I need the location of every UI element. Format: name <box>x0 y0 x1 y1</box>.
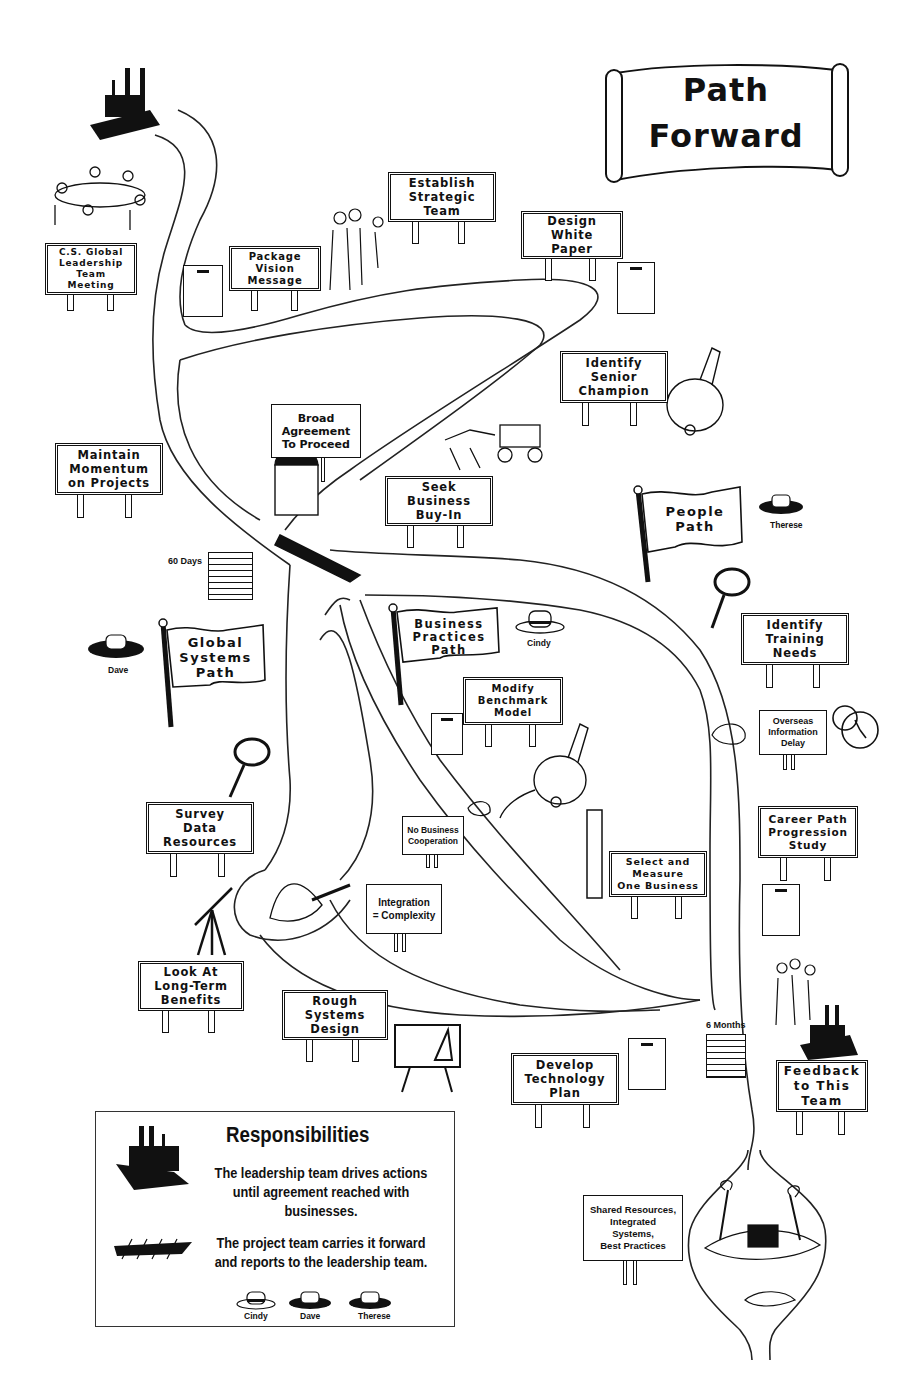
sign-no-business-cooperation: No Business Cooperation <box>402 816 464 868</box>
clipboard-icon <box>431 713 463 755</box>
sign-establish-strategic-team: Establish Strategic Team <box>388 172 496 244</box>
sign-look-long-term-benefits: Look At Long-Term Benefits <box>138 961 244 1033</box>
elephant-icon <box>667 348 723 435</box>
calendar-icon <box>706 1034 746 1078</box>
hat-icon <box>236 1288 276 1310</box>
legend-title: Responsibilities <box>226 1122 369 1148</box>
people-group-icon <box>776 959 815 1025</box>
stagecoach-icon <box>445 425 542 470</box>
hat-icon <box>515 605 565 635</box>
magnifier-icon <box>230 739 269 797</box>
drafting-table-icon <box>395 1025 460 1092</box>
legend-person-therese: Therese <box>358 1311 391 1321</box>
legend-project-text: The project team carries it forward and … <box>207 1234 436 1272</box>
clipboard-icon <box>762 884 800 936</box>
alarm-clock-icon <box>833 706 878 748</box>
hat-icon <box>86 627 146 659</box>
flag-people-path: People Path <box>630 482 750 587</box>
legend-person-dave: Dave <box>300 1311 320 1321</box>
flag-business-practices-path: Business Practices Path <box>385 600 505 710</box>
people-group-icon <box>330 209 383 290</box>
sign-design-white-paper: Design White Paper <box>521 211 623 281</box>
flag-global-systems-path: Global Systems Path <box>155 615 270 730</box>
sign-identify-training-needs: Identify Training Needs <box>741 613 849 688</box>
steamboat-icon <box>114 1124 194 1194</box>
responsibilities-legend: Responsibilities The leadership team dri… <box>95 1111 455 1327</box>
milestone-6-months: 6 Months <box>706 1020 746 1030</box>
title-line-1: Path <box>596 70 856 110</box>
sign-develop-technology-plan: Develop Technology Plan <box>511 1053 619 1128</box>
treasure-island-icon <box>705 1181 820 1306</box>
flag-icon <box>630 482 750 587</box>
ruler-icon <box>587 810 602 898</box>
clipboard-icon <box>628 1038 666 1090</box>
calendar-icon <box>208 552 253 600</box>
rowboat-icon <box>112 1234 197 1264</box>
hat-label-dave: Dave <box>108 665 128 675</box>
milestone-60-days: 60 Days <box>168 556 202 566</box>
hat-label-cindy: Cindy <box>527 638 551 648</box>
hat-icon <box>348 1288 392 1310</box>
clipboard-icon <box>617 262 655 314</box>
rowboat-icon <box>275 535 360 582</box>
sign-shared-resources: Shared Resources, Integrated Systems, Be… <box>583 1195 683 1285</box>
sign-survey-data-resources: Survey Data Resources <box>146 802 254 877</box>
sign-career-path-study: Career Path Progression Study <box>758 806 858 881</box>
sign-seek-business-buy-in: Seek Business Buy-In <box>385 476 493 548</box>
telescope-icon <box>195 888 232 955</box>
sign-identify-senior-champion: Identify Senior Champion <box>560 351 668 426</box>
meeting-table-icon <box>55 167 145 230</box>
sign-package-vision: Package Vision Message <box>229 246 321 312</box>
legend-leadership-text: The leadership team drives actions until… <box>198 1164 444 1221</box>
sign-rough-systems-design: Rough Systems Design <box>282 990 388 1062</box>
title-line-2: Forward <box>596 116 856 156</box>
sign-select-measure-business: Select and Measure One Business <box>609 851 707 919</box>
sign-maintain-momentum: Maintain Momentum on Projects <box>55 443 163 518</box>
hat-label-therese: Therese <box>770 520 803 530</box>
clipboard-icon <box>183 265 223 317</box>
sign-feedback-to-team: Feedback to This Team <box>776 1060 868 1135</box>
hat-icon <box>288 1288 332 1310</box>
steamboat-icon <box>800 1005 858 1060</box>
sign-overseas-information-delay: Overseas Information Delay <box>759 710 827 770</box>
legend-person-cindy: Cindy <box>244 1311 268 1321</box>
sign-cs-global-meeting: C.S. Global Leadership Team Meeting <box>45 243 137 311</box>
steamboat-icon <box>90 68 160 140</box>
sign-broad-agreement: Broad Agreement To Proceed <box>271 404 361 482</box>
title-banner: Path Forward <box>596 58 856 190</box>
hat-icon <box>758 487 804 515</box>
sign-integration-complexity: Integration = Complexity <box>366 884 442 952</box>
